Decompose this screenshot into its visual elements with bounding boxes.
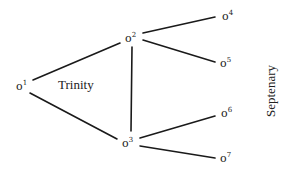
edge-o3-o6 <box>140 116 215 138</box>
septenary-label: Septenary <box>264 65 277 117</box>
node-o7: o7 <box>220 152 231 164</box>
edges-layer <box>0 0 294 171</box>
edge-o2-o5 <box>143 40 215 62</box>
edge-o1-o3 <box>30 93 117 139</box>
node-o6: o6 <box>221 107 232 119</box>
trinity-label: Trinity <box>58 78 94 91</box>
edge-o1-o2 <box>33 43 120 80</box>
edge-o2-o4 <box>143 17 215 33</box>
node-o2: o2 <box>125 32 136 44</box>
diagram-canvas: o1 o2 o3 o4 o5 o6 o7 Trinity Septenary <box>0 0 294 171</box>
node-o4: o4 <box>222 10 233 22</box>
node-o1: o1 <box>16 80 27 92</box>
edge-o2-o3 <box>131 47 132 131</box>
node-o5: o5 <box>220 57 231 69</box>
edge-o3-o7 <box>140 146 215 158</box>
node-o3: o3 <box>122 137 133 149</box>
